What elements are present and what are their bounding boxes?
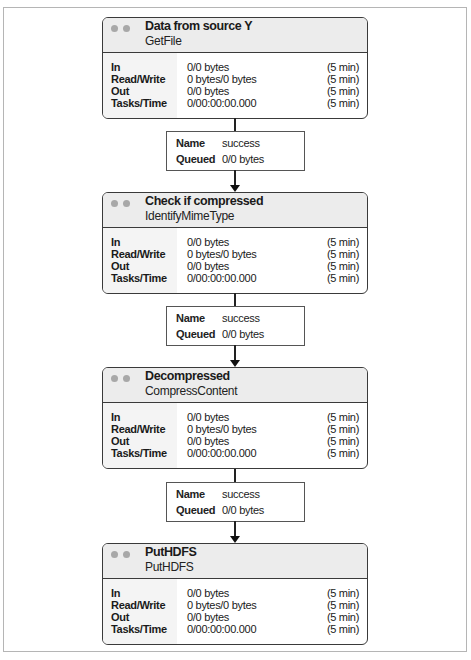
stat-row-read-write: Read/Write 0 bytes/0 bytes (5 min)	[103, 600, 367, 611]
processor-header: Decompressed CompressContent	[103, 368, 367, 403]
stat-row-out: Out 0/0 bytes (5 min)	[103, 436, 367, 447]
processor-compress-content[interactable]: Decompressed CompressContent In 0/0 byte…	[102, 367, 368, 469]
stat-period: (5 min)	[327, 436, 359, 447]
status-dot-icon	[111, 200, 118, 207]
stat-label: Tasks/Time	[111, 624, 167, 635]
stat-value: 0/0 bytes	[187, 588, 229, 599]
stat-value: 0/0 bytes	[187, 261, 229, 272]
stat-value: 0 bytes/0 bytes	[187, 74, 257, 85]
processor-get-file[interactable]: Data from source Y GetFile In 0/0 bytes …	[102, 17, 368, 119]
stat-row-read-write: Read/Write 0 bytes/0 bytes (5 min)	[103, 74, 367, 85]
arrow-down-icon	[230, 360, 240, 367]
connection-name-label: Name	[176, 311, 205, 325]
processor-stats: In 0/0 bytes (5 min) Read/Write 0 bytes/…	[103, 53, 367, 118]
stat-label: Out	[111, 612, 129, 623]
stat-period: (5 min)	[327, 62, 359, 73]
connection-line	[234, 469, 236, 482]
stat-period: (5 min)	[327, 588, 359, 599]
connection-name-label: Name	[176, 136, 205, 150]
stat-value: 0 bytes/0 bytes	[187, 424, 257, 435]
connection-box[interactable]: Name success Queued 0/0 bytes	[166, 131, 305, 171]
connection-box[interactable]: Name success Queued 0/0 bytes	[166, 306, 305, 346]
status-dot-icon	[123, 200, 130, 207]
connection-line	[234, 345, 236, 361]
stat-row-tasks-time: Tasks/Time 0/00:00:00.000 (5 min)	[103, 448, 367, 459]
processor-put-hdfs[interactable]: PutHDFS PutHDFS In 0/0 bytes (5 min) Rea…	[102, 543, 368, 645]
connection-name-label: Name	[176, 487, 205, 501]
stat-label: Read/Write	[111, 424, 165, 435]
processor-title: Check if compressed	[145, 194, 263, 209]
connection-name-value: success	[222, 136, 260, 150]
stat-value: 0/00:00:00.000	[187, 448, 256, 459]
processor-header: Check if compressed IdentifyMimeType	[103, 193, 367, 228]
connection-queued-row: Queued 0/0 bytes	[176, 503, 300, 517]
stat-row-tasks-time: Tasks/Time 0/00:00:00.000 (5 min)	[103, 273, 367, 284]
status-dot-icon	[111, 551, 118, 558]
processor-type: CompressContent	[145, 384, 237, 399]
stat-label: Out	[111, 86, 129, 97]
stat-row-out: Out 0/0 bytes (5 min)	[103, 261, 367, 272]
connection-box[interactable]: Name success Queued 0/0 bytes	[166, 482, 305, 522]
arrow-down-icon	[230, 185, 240, 192]
stat-value: 0/0 bytes	[187, 237, 229, 248]
stat-period: (5 min)	[327, 273, 359, 284]
processor-type: IdentifyMimeType	[145, 209, 234, 224]
processor-identify-mime-type[interactable]: Check if compressed IdentifyMimeType In …	[102, 192, 368, 294]
status-dot-icon	[111, 375, 118, 382]
processor-stats: In 0/0 bytes (5 min) Read/Write 0 bytes/…	[103, 403, 367, 468]
connection-name-row: Name success	[176, 136, 300, 150]
stat-label: Out	[111, 436, 129, 447]
stat-label: In	[111, 237, 120, 248]
connection-queued-label: Queued	[176, 503, 215, 517]
stat-value: 0/0 bytes	[187, 412, 229, 423]
stat-value: 0/0 bytes	[187, 62, 229, 73]
stat-row-in: In 0/0 bytes (5 min)	[103, 412, 367, 423]
stat-label: In	[111, 588, 120, 599]
connection-name-row: Name success	[176, 311, 300, 325]
stat-value: 0/00:00:00.000	[187, 98, 256, 109]
stat-period: (5 min)	[327, 261, 359, 272]
stat-row-out: Out 0/0 bytes (5 min)	[103, 612, 367, 623]
stat-label: Tasks/Time	[111, 448, 167, 459]
connection-name-value: success	[222, 487, 260, 501]
arrow-down-icon	[230, 536, 240, 543]
stat-label: In	[111, 412, 120, 423]
stat-label: In	[111, 62, 120, 73]
processor-type: PutHDFS	[145, 560, 194, 575]
connection-name-value: success	[222, 311, 260, 325]
status-dot-icon	[123, 25, 130, 32]
stat-row-in: In 0/0 bytes (5 min)	[103, 588, 367, 599]
processor-title: PutHDFS	[145, 545, 196, 560]
stat-value: 0/0 bytes	[187, 86, 229, 97]
stat-row-read-write: Read/Write 0 bytes/0 bytes (5 min)	[103, 249, 367, 260]
stat-period: (5 min)	[327, 448, 359, 459]
processor-header: PutHDFS PutHDFS	[103, 544, 367, 579]
stat-label: Out	[111, 261, 129, 272]
stat-value: 0/00:00:00.000	[187, 273, 256, 284]
status-dot-icon	[123, 551, 130, 558]
stat-value: 0/0 bytes	[187, 436, 229, 447]
stat-label: Read/Write	[111, 249, 165, 260]
processor-title: Data from source Y	[145, 19, 252, 34]
status-dot-icon	[111, 25, 118, 32]
connection-queued-row: Queued 0/0 bytes	[176, 327, 300, 341]
stat-label: Tasks/Time	[111, 98, 167, 109]
stat-period: (5 min)	[327, 412, 359, 423]
stat-period: (5 min)	[327, 98, 359, 109]
stat-row-read-write: Read/Write 0 bytes/0 bytes (5 min)	[103, 424, 367, 435]
connection-queued-value: 0/0 bytes	[222, 503, 264, 517]
connection-name-row: Name success	[176, 487, 300, 501]
connection-queued-label: Queued	[176, 152, 215, 166]
stat-row-in: In 0/0 bytes (5 min)	[103, 237, 367, 248]
stat-label: Tasks/Time	[111, 273, 167, 284]
stat-period: (5 min)	[327, 249, 359, 260]
stat-label: Read/Write	[111, 600, 165, 611]
connection-line	[234, 293, 236, 306]
stat-value: 0 bytes/0 bytes	[187, 249, 257, 260]
connection-line	[234, 170, 236, 186]
connection-queued-value: 0/0 bytes	[222, 327, 264, 341]
stat-period: (5 min)	[327, 86, 359, 97]
stat-value: 0 bytes/0 bytes	[187, 600, 257, 611]
stat-value: 0/00:00:00.000	[187, 624, 256, 635]
connection-queued-label: Queued	[176, 327, 215, 341]
